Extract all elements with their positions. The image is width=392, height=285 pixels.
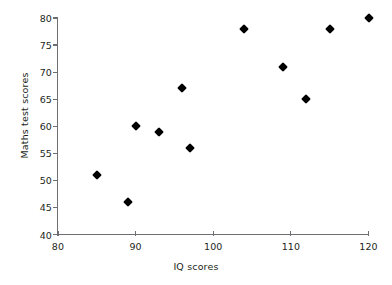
data-point [177,83,187,93]
data-point [131,121,141,131]
data-point [123,197,133,207]
data-points-layer [0,0,392,285]
scatter-chart: 8090100110120 404550556065707580 IQ scor… [0,0,392,285]
x-axis-title: IQ scores [0,261,392,272]
data-point [154,127,164,137]
data-point [301,94,311,104]
y-axis-title: Maths test scores [19,46,30,186]
data-point [92,170,102,180]
data-point [278,62,288,72]
data-point [185,143,195,153]
data-point [239,24,249,34]
data-point [325,24,335,34]
data-point [364,13,374,23]
